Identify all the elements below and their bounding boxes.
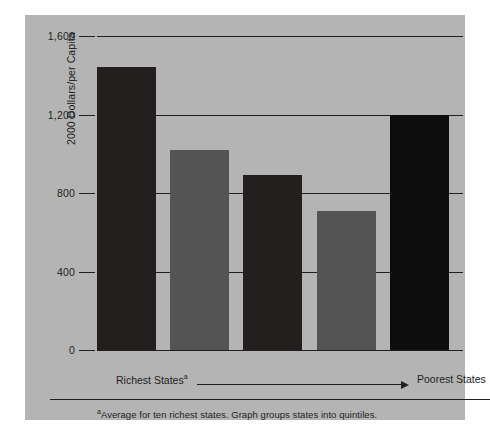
footnote-body: Average for ten richest states. Graph gr…	[101, 409, 377, 420]
right-arrow-icon	[197, 380, 409, 389]
y-tick-label-800: 800	[57, 187, 75, 199]
bar-quintile-1[interactable]	[97, 67, 156, 350]
y-axis-title: 2000 Dollars/per Capita	[65, 32, 77, 145]
y-tick-mark-1600	[79, 36, 95, 37]
x-axis-label-richest: Richest Statesa	[116, 373, 188, 386]
y-tick-label-1200: 1,200	[48, 109, 75, 121]
x-axis-label-row: Richest Statesa Poorest States	[50, 373, 490, 393]
arrow-shaft	[197, 384, 402, 385]
footnote-text: aAverage for ten richest states. Graph g…	[97, 408, 377, 420]
footnote-marker-richest: a	[184, 373, 188, 380]
y-tick-mark-800	[79, 193, 95, 194]
bar-quintile-3[interactable]	[243, 175, 302, 350]
plot-area: 1,600 1,200 800 400 0	[97, 36, 463, 350]
gridline-1600	[97, 36, 463, 37]
bar-quintile-5[interactable]	[390, 115, 449, 351]
bar-quintile-4[interactable]	[317, 211, 376, 350]
chart-panel: 2000 Dollars/per Capita 1,600 1,200 800 …	[25, 15, 465, 420]
footnote-divider-rule	[50, 399, 490, 400]
y-tick-mark-0	[79, 350, 95, 351]
y-tick-label-1600: 1,600	[48, 30, 75, 42]
x-axis-label-richest-text: Richest States	[116, 374, 184, 386]
bar-quintile-2[interactable]	[170, 150, 229, 350]
axis-baseline-0	[97, 350, 463, 351]
x-axis-label-poorest: Poorest States	[417, 373, 486, 385]
y-tick-label-400: 400	[57, 266, 75, 278]
y-tick-mark-400	[79, 272, 95, 273]
y-tick-mark-1200	[79, 115, 95, 116]
arrow-head	[401, 381, 409, 389]
y-tick-label-0: 0	[69, 344, 75, 356]
